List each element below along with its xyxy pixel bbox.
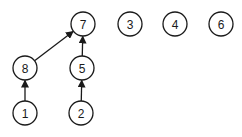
node-4: 4 xyxy=(163,12,187,36)
node-1: 1 xyxy=(13,101,37,125)
edge-8-to-7 xyxy=(35,32,73,61)
node-label: 8 xyxy=(22,62,29,76)
node-8: 8 xyxy=(13,56,37,80)
node-label: 7 xyxy=(80,18,87,32)
node-label: 5 xyxy=(79,62,86,76)
node-label: 1 xyxy=(22,107,29,121)
node-2: 2 xyxy=(69,101,93,125)
node-7: 7 xyxy=(71,12,95,36)
node-label: 3 xyxy=(127,18,134,32)
node-6: 6 xyxy=(209,12,233,36)
node-label: 2 xyxy=(78,107,85,121)
node-5: 5 xyxy=(70,56,94,80)
node-label: 6 xyxy=(218,18,225,32)
node-label: 4 xyxy=(172,18,179,32)
nodes-layer: 73468512 xyxy=(13,12,233,125)
tree-diagram: 73468512 xyxy=(0,0,242,137)
node-3: 3 xyxy=(118,12,142,36)
